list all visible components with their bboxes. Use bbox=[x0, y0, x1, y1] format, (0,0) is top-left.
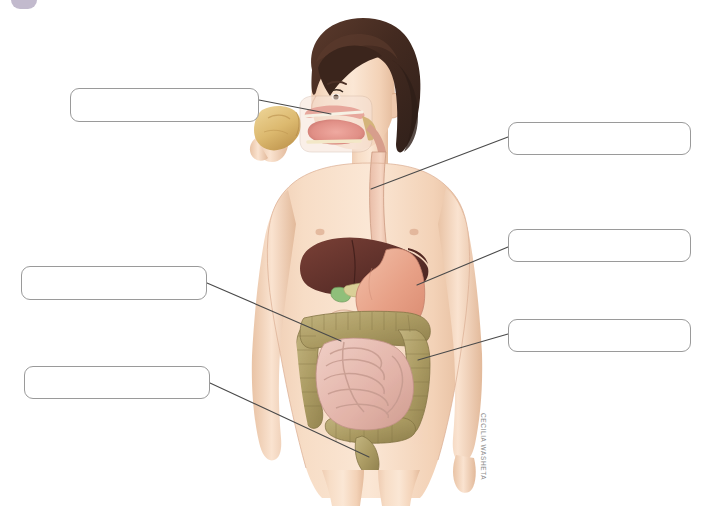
answer-text-rectum-anus[interactable] bbox=[25, 367, 219, 398]
answer-box-rectum-anus[interactable] bbox=[24, 366, 210, 399]
worksheet-canvas: CECILIA WASHETA bbox=[0, 0, 713, 510]
answer-text-stomach[interactable] bbox=[509, 230, 700, 261]
answer-box-small-intestine[interactable] bbox=[508, 319, 691, 352]
answer-text-large-intestine[interactable] bbox=[22, 267, 216, 299]
answer-text-esophagus[interactable] bbox=[509, 123, 700, 154]
answer-text-mouth[interactable] bbox=[71, 89, 268, 121]
answer-text-small-intestine[interactable] bbox=[509, 320, 700, 351]
small-intestine-shape bbox=[316, 338, 414, 430]
answer-box-mouth[interactable] bbox=[70, 88, 259, 122]
answer-box-esophagus[interactable] bbox=[508, 122, 691, 155]
artist-credit: CECILIA WASHETA bbox=[480, 413, 487, 509]
answer-box-large-intestine[interactable] bbox=[21, 266, 207, 300]
answer-box-stomach[interactable] bbox=[508, 229, 691, 262]
